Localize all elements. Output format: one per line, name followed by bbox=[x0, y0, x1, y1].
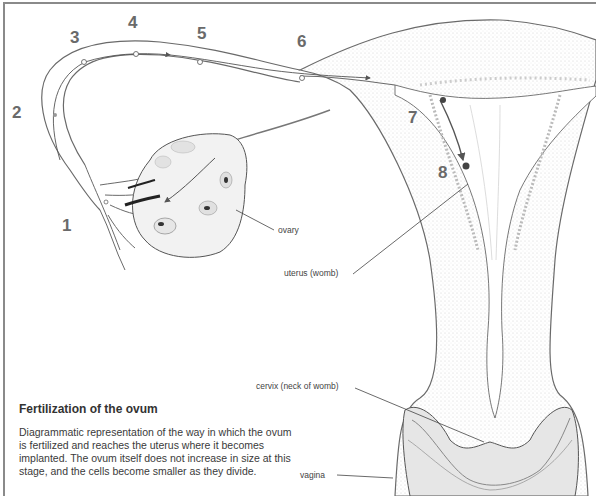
stage-marker-4: 4 bbox=[128, 13, 137, 33]
figure-title: Fertilization of the ovum bbox=[19, 402, 158, 416]
stage-marker-8: 8 bbox=[438, 163, 447, 183]
label-uterus: uterus (womb) bbox=[284, 268, 338, 278]
leader-vagina bbox=[337, 475, 393, 478]
stage-marker-6: 6 bbox=[297, 32, 306, 52]
ovum-stage-1 bbox=[104, 200, 108, 204]
stage-marker-1: 1 bbox=[62, 216, 71, 236]
label-ovary: ovary bbox=[278, 225, 299, 235]
stage-marker-7: 7 bbox=[408, 108, 417, 128]
ovum-stage-8 bbox=[463, 163, 470, 170]
stage-marker-3: 3 bbox=[70, 28, 79, 48]
ovary-shape bbox=[125, 134, 247, 258]
label-cervix: cervix (neck of womb) bbox=[256, 381, 339, 391]
figure-description: Diagrammatic representation of the way i… bbox=[19, 426, 294, 478]
ovarian-ligament bbox=[235, 110, 330, 140]
ovum-stage-3 bbox=[82, 60, 87, 65]
ovum-stage-2 bbox=[53, 113, 57, 117]
ovum-stage-6 bbox=[300, 76, 305, 81]
stage-marker-2: 2 bbox=[12, 103, 21, 123]
leader-ovary bbox=[236, 210, 274, 230]
ovum-stage-7 bbox=[440, 97, 446, 103]
reproductive-anatomy-illustration bbox=[0, 0, 596, 496]
label-vagina: vagina bbox=[300, 470, 325, 480]
stage-marker-5: 5 bbox=[197, 24, 206, 44]
ovum-stage-5 bbox=[198, 60, 203, 65]
ovum-stage-4 bbox=[134, 52, 139, 57]
